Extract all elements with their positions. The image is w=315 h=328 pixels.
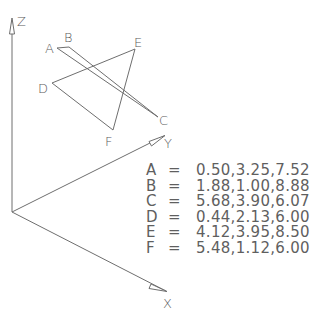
y-axis-label: Y xyxy=(164,136,172,151)
point-label-a: A xyxy=(45,41,54,56)
x-axis-arrow-icon xyxy=(149,284,167,292)
y-axis xyxy=(12,136,164,212)
x-axis xyxy=(12,212,166,291)
equals-sign: = xyxy=(168,241,196,257)
coordinates-table: A = 0.50,3.25,7.52 B = 1.88,1.00,8.88 C … xyxy=(146,163,310,256)
coord-value: 5.48,1.12,6.00 xyxy=(196,241,310,257)
segments xyxy=(57,47,158,117)
z-axis-arrow-icon xyxy=(10,18,15,34)
point-label-b: B xyxy=(64,30,73,45)
point-label-c: C xyxy=(159,113,168,128)
y-axis-arrow-icon xyxy=(149,136,165,147)
segment-ac xyxy=(57,48,158,117)
coord-row-f: F = 5.48,1.12,6.00 xyxy=(146,241,310,257)
coord-name: F xyxy=(146,241,168,257)
segment-bc xyxy=(57,47,69,48)
z-axis-label: Z xyxy=(17,14,26,29)
point-label-d: D xyxy=(38,81,48,96)
point-label-e: E xyxy=(134,35,142,50)
point-label-f: F xyxy=(105,134,112,149)
x-axis-label: X xyxy=(163,296,172,311)
